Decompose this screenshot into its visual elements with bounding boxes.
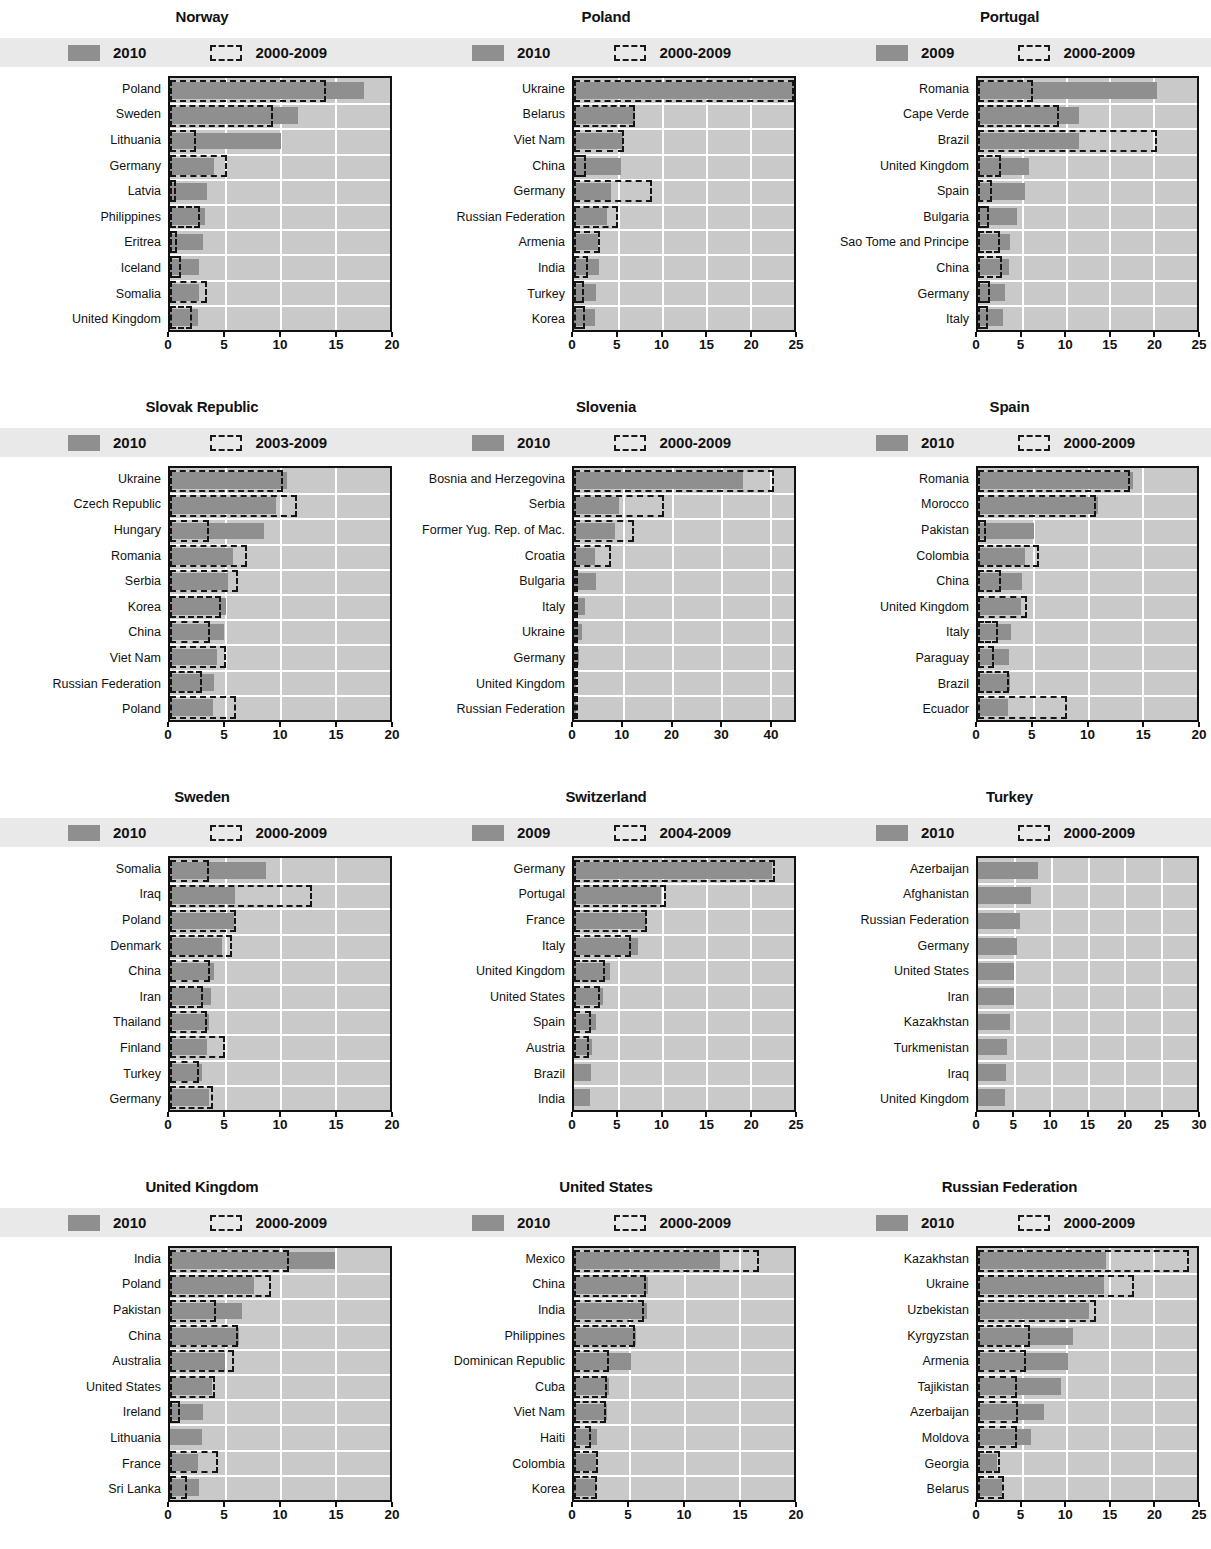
plot-frame (572, 1246, 796, 1502)
axis-tick-label: 25 (788, 338, 803, 352)
category-label: Belarus (808, 1476, 976, 1502)
panel-title: Portugal (808, 0, 1211, 31)
bar-dashed (170, 696, 236, 718)
category-label: Croatia (404, 543, 572, 569)
axis-tick-label: 10 (1043, 1118, 1058, 1132)
category-label: China (0, 620, 168, 646)
bar-dashed (978, 470, 1130, 492)
category-label: Ukraine (404, 620, 572, 646)
bar-rows (978, 468, 1197, 720)
value-axis: 05101520 (168, 332, 392, 356)
plot-frame (168, 856, 392, 1112)
bar-rows (978, 1248, 1197, 1500)
axis-tick-label: 5 (220, 728, 228, 742)
bar-dashed (978, 180, 992, 202)
axis-tick-label: 5 (220, 338, 228, 352)
bar-row (978, 544, 1197, 569)
bar-row (574, 254, 794, 279)
dashed-bar-swatch-icon (1018, 45, 1050, 61)
bar-dashed (574, 306, 585, 328)
dashed-bar-swatch-icon (614, 435, 646, 451)
bar-dashed (574, 671, 578, 693)
bar-row (978, 154, 1197, 179)
axis-tick-label: 15 (1102, 1508, 1117, 1522)
bar-row (978, 1298, 1197, 1323)
bar-dashed (574, 1451, 598, 1473)
bar-row (978, 1475, 1197, 1500)
bar-dashed (170, 206, 200, 228)
category-label: United States (404, 984, 572, 1010)
bar-dashed (978, 105, 1059, 127)
bar-dashed (978, 130, 1157, 152)
gridline-vertical (390, 1248, 392, 1500)
axis-tick-label: 10 (1080, 728, 1095, 742)
bar-row (170, 305, 390, 330)
legend-entry-dashed: 2000-2009 (210, 45, 327, 61)
plot-area: MexicoChinaIndiaPhilippinesDominican Rep… (404, 1246, 808, 1526)
gridline-vertical (794, 858, 796, 1110)
category-axis-labels: AzerbaijanAfghanistanRussian FederationG… (808, 856, 976, 1112)
bar-row (978, 908, 1197, 933)
bar-row (574, 468, 794, 493)
plot-frame (572, 76, 796, 332)
value-axis: 05101520 (976, 722, 1199, 746)
solid-bar-swatch-icon (472, 45, 504, 61)
legend-entry-dashed: 2000-2009 (1018, 1215, 1135, 1231)
legend-entry-solid: 2010 (876, 1215, 954, 1231)
category-label: Sweden (0, 102, 168, 128)
bar-row (170, 1424, 390, 1449)
bar-row (978, 1399, 1197, 1424)
bar-dashed (978, 671, 1009, 693)
bar-dashed (170, 1275, 271, 1297)
bar-dashed (574, 1376, 607, 1398)
bar-row (574, 1324, 794, 1349)
bar-row (978, 1324, 1197, 1349)
bar-row (574, 518, 794, 543)
category-label: Ukraine (404, 76, 572, 102)
axis-tick-label: 10 (654, 1118, 669, 1132)
category-label: Kazakhstan (808, 1246, 976, 1272)
category-label: India (404, 1297, 572, 1323)
bar-row (170, 518, 390, 543)
category-label: Armenia (404, 230, 572, 256)
value-axis: 010203040 (572, 722, 796, 746)
bar-solid (978, 1039, 1007, 1056)
bar-rows (170, 78, 390, 330)
category-label: Uzbekistan (808, 1297, 976, 1323)
axis-tick-label: 15 (1080, 1118, 1095, 1132)
bar-dashed (978, 1376, 1017, 1398)
plot-canvas (976, 466, 1199, 722)
bar-dashed (978, 570, 1001, 592)
category-label: Dominican Republic (404, 1348, 572, 1374)
legend-label-dashed: 2000-2009 (255, 825, 327, 840)
bar-rows (170, 1248, 390, 1500)
bar-row (978, 1060, 1197, 1085)
bar-dashed (170, 256, 181, 278)
bar-row (170, 858, 390, 883)
bar-dashed (170, 671, 202, 693)
axis-tick-label: 15 (732, 1508, 747, 1522)
category-label: Romania (808, 466, 976, 492)
bar-row (574, 984, 794, 1009)
bar-dashed (574, 1275, 646, 1297)
category-label: Kyrgyzstan (808, 1323, 976, 1349)
value-axis: 0510152025 (976, 332, 1199, 356)
legend-label-dashed: 2000-2009 (1063, 435, 1135, 450)
dashed-bar-swatch-icon (210, 825, 242, 841)
axis-tick-label: 10 (1058, 1508, 1073, 1522)
bar-row (978, 1424, 1197, 1449)
category-label: Romania (0, 543, 168, 569)
bar-dashed (574, 1476, 597, 1498)
category-label: Former Yug. Rep. of Mac. (404, 517, 572, 543)
axis-tick-label: 15 (1136, 728, 1151, 742)
legend-label-dashed: 2000-2009 (1063, 1215, 1135, 1230)
bar-row (574, 1374, 794, 1399)
legend-entry-solid: 2010 (876, 825, 954, 841)
axis-tick-label: 20 (384, 1118, 399, 1132)
bar-dashed (170, 545, 247, 567)
legend-label-solid: 2009 (921, 45, 954, 60)
bar-dashed (978, 1275, 1134, 1297)
axis-tick-label: 25 (1191, 1508, 1206, 1522)
bar-dashed (170, 910, 236, 932)
plot-frame (168, 466, 392, 722)
